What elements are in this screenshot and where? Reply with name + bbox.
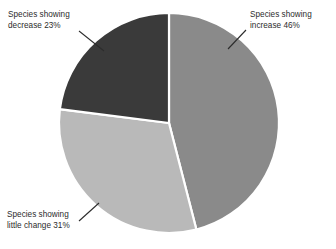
pie-label-little-change-line1: Species showing xyxy=(7,209,70,220)
pie-label-decrease-line2: decrease 23% xyxy=(8,20,70,31)
pie-label-increase-line2: increase 46% xyxy=(250,20,312,31)
pie-label-little-change: Species showing little change 31% xyxy=(7,209,70,231)
pie-slice-decrease[interactable] xyxy=(60,13,169,123)
pie-label-increase: Species showing increase 46% xyxy=(250,9,312,31)
pie-label-little-change-line2: little change 31% xyxy=(7,220,70,231)
pie-chart-figure: Species showing decrease 23% Species sho… xyxy=(0,0,336,249)
pie-label-increase-line1: Species showing xyxy=(250,9,312,20)
clipped-caption-fragment xyxy=(8,245,128,249)
pie-label-decrease-line1: Species showing xyxy=(8,9,70,20)
pie-label-decrease: Species showing decrease 23% xyxy=(8,9,70,31)
leader-line-little-change xyxy=(79,203,99,221)
